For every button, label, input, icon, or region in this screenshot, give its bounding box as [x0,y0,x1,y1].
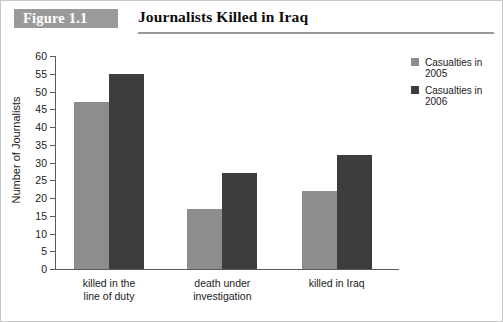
bar-group [302,56,372,269]
y-axis-tick-mark [50,180,55,181]
y-axis-tick-label-wrap: 55 [1,69,47,79]
header-divider [138,32,494,34]
y-axis-tick-mark [50,74,55,75]
figure-panel: Figure 1.1 Journalists Killed in Iraq Nu… [0,0,503,322]
legend-swatch-2005 [411,58,419,66]
y-axis-tick-label-wrap: 40 [1,122,47,132]
bar-chart: Number of Journalists 051015202530354045… [1,39,503,322]
legend-item[interactable]: Casualties in2005 [411,57,499,79]
y-axis-tick-label-wrap: 15 [1,211,47,221]
legend-label-line: Casualties in [425,85,499,96]
legend-label-line: 2006 [425,96,499,107]
y-axis-tick-mark [50,234,55,235]
legend-item[interactable]: Casualties in2006 [411,85,499,107]
y-axis-tick-mark [50,145,55,146]
y-axis-tick-label-wrap: 35 [1,140,47,150]
category-label-line: death under [167,277,277,290]
y-axis-tick-label: 60 [3,51,47,61]
y-axis-tick-label: 50 [3,87,47,97]
y-axis-tick-label: 5 [3,246,47,256]
plot-area [56,56,399,269]
y-axis-tick-label: 35 [3,140,47,150]
x-axis-category-label: killed in Iraq [282,277,392,290]
x-axis-category-label: death underinvestigation [167,277,277,302]
figure-number-badge: Figure 1.1 [14,9,118,28]
y-axis-tick-mark [50,56,55,57]
y-axis-tick-label: 0 [3,264,47,274]
y-axis-tick-label-wrap: 25 [1,175,47,185]
bar-2005[interactable] [74,102,109,269]
y-axis-tick-label: 45 [3,104,47,114]
bar-2006[interactable] [337,155,372,269]
y-axis-tick-label: 15 [3,211,47,221]
bar-group [74,56,144,269]
category-label-line: killed in Iraq [282,277,392,290]
y-axis-tick-label-wrap: 30 [1,158,47,168]
figure-title: Journalists Killed in Iraq [138,7,308,27]
bar-2005[interactable] [187,209,222,269]
y-axis-tick-label-wrap: 0 [1,264,47,274]
x-axis-line [55,269,399,270]
y-axis-tick-mark [50,109,55,110]
y-axis-tick-label-wrap: 50 [1,87,47,97]
bar-2006[interactable] [222,173,257,269]
category-label-line: line of duty [54,290,164,303]
legend-swatch-2006 [411,86,419,94]
y-axis-tick-mark [50,269,55,270]
figure-header: Figure 1.1 Journalists Killed in Iraq [1,1,503,39]
y-axis-tick-mark [50,163,55,164]
bar-2005[interactable] [302,191,337,269]
bar-2006[interactable] [109,74,144,269]
y-axis-tick-label-wrap: 5 [1,246,47,256]
y-axis-tick-label: 10 [3,229,47,239]
x-axis-category-label: killed in theline of duty [54,277,164,302]
y-axis-tick-label: 30 [3,158,47,168]
y-axis-tick-label: 55 [3,69,47,79]
y-axis-tick-label-wrap: 10 [1,229,47,239]
legend-label-line: 2005 [425,68,499,79]
chart-legend: Casualties in2005Casualties in2006 [411,57,499,113]
y-axis-tick-mark [50,216,55,217]
legend-label-line: Casualties in [425,57,499,68]
y-axis-tick-label-wrap: 60 [1,51,47,61]
bar-group [187,56,257,269]
category-label-line: investigation [167,290,277,303]
y-axis-tick-label: 40 [3,122,47,132]
y-axis-tick-mark [50,92,55,93]
y-axis-tick-label-wrap: 45 [1,104,47,114]
y-axis-tick-label: 20 [3,193,47,203]
category-label-line: killed in the [54,277,164,290]
y-axis-tick-mark [50,198,55,199]
y-axis-tick-mark [50,127,55,128]
y-axis-tick-label: 25 [3,175,47,185]
y-axis-tick-mark [50,251,55,252]
y-axis-tick-label-wrap: 20 [1,193,47,203]
